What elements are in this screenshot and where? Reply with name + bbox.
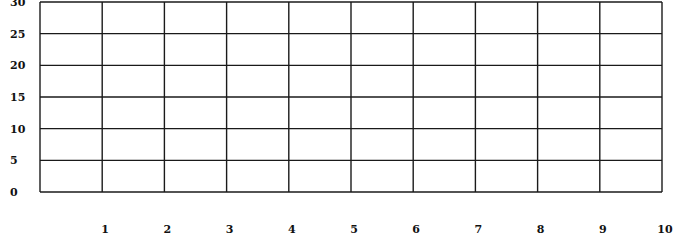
- x-tick-label: 2: [164, 223, 172, 235]
- y-tick-label: 10: [10, 123, 26, 136]
- x-tick-label: 8: [537, 223, 545, 235]
- grid-lines: [40, 2, 662, 192]
- y-axis-tick-labels: 051015202530: [10, 0, 26, 199]
- empty-grid-chart: 051015202530 12345678910: [0, 0, 676, 235]
- x-tick-label: 3: [226, 223, 234, 235]
- y-tick-label: 0: [10, 186, 18, 199]
- x-tick-label: 7: [475, 223, 483, 235]
- x-tick-label: 9: [599, 223, 607, 235]
- y-tick-label: 30: [10, 0, 26, 9]
- y-tick-label: 5: [10, 154, 18, 167]
- x-tick-label: 6: [412, 223, 420, 235]
- y-tick-label: 25: [10, 28, 25, 41]
- x-tick-label: 10: [657, 223, 673, 235]
- x-tick-label: 1: [101, 223, 109, 235]
- x-tick-label: 5: [350, 223, 358, 235]
- y-tick-label: 20: [10, 59, 26, 72]
- x-axis-tick-labels: 12345678910: [101, 223, 673, 235]
- x-tick-label: 4: [288, 223, 296, 235]
- y-tick-label: 15: [10, 91, 25, 104]
